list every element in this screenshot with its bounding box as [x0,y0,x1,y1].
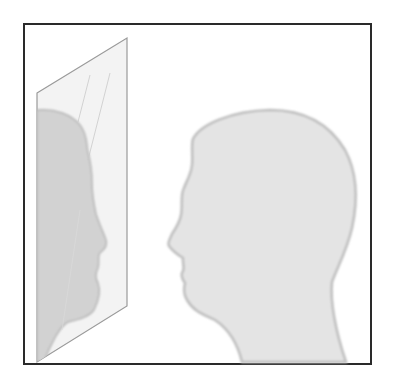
mirror [37,38,127,362]
mirror-scene [0,0,394,389]
head-silhouette [168,110,355,362]
